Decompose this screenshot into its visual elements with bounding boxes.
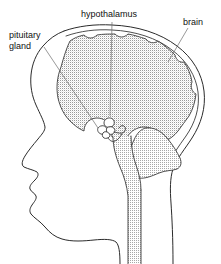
anatomy-diagram: hypothalamus brain pituitary gland <box>0 0 221 264</box>
label-pituitary-line2: gland <box>9 41 31 51</box>
label-brain: brain <box>183 17 203 27</box>
label-hypothalamus: hypothalamus <box>81 9 138 19</box>
head-sagittal-svg: hypothalamus brain pituitary gland <box>0 0 221 264</box>
leader-brain <box>168 28 188 62</box>
label-pituitary-line1: pituitary <box>9 30 41 40</box>
hypothalamus-region <box>104 118 114 127</box>
